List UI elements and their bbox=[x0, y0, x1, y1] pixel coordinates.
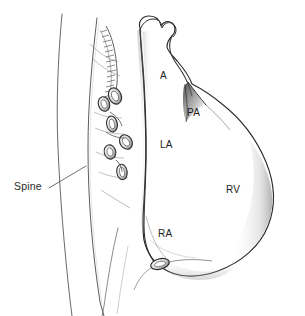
pulmonary-vessel-rings bbox=[96, 86, 135, 181]
vertebral-column-anterior-line bbox=[88, 18, 104, 316]
spine-leader-line bbox=[49, 166, 86, 188]
posterior-vessel-line bbox=[102, 228, 128, 316]
vertebral-column-posterior-line bbox=[57, 14, 72, 316]
figure-root: Spine A PA LA RV RA bbox=[0, 0, 305, 316]
anatomy-illustration bbox=[0, 0, 305, 316]
